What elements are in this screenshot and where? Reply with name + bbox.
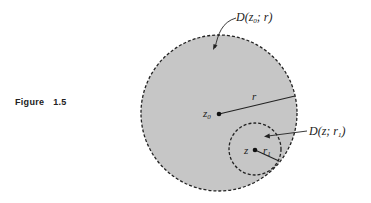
center-z-label: z	[243, 144, 249, 156]
center-z-dot	[253, 148, 258, 153]
inner-disk-label: D(z; r1)	[308, 124, 346, 139]
outer-radius-label: r	[252, 90, 257, 102]
center-z0-dot	[217, 112, 222, 117]
outer-disk-label: D(z0; r)	[235, 10, 273, 25]
disk-diagram: D(z0; r) D(z; r1) z0 r z r1	[0, 0, 371, 203]
